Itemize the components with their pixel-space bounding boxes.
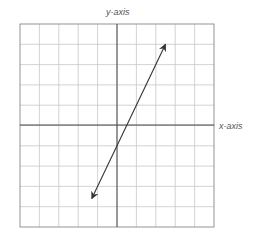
plotted-line xyxy=(92,44,166,198)
coordinate-grid xyxy=(0,0,254,235)
